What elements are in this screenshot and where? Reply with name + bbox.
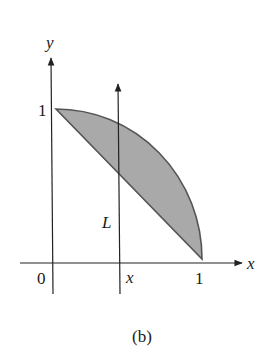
shaded-region — [56, 109, 202, 259]
line-L-label: L — [101, 213, 111, 232]
y-axis-label: y — [44, 33, 54, 52]
y-tick-label: 1 — [38, 101, 47, 120]
x-position-label: x — [125, 268, 134, 287]
y-axis — [51, 58, 53, 294]
origin-label: 0 — [37, 269, 46, 288]
figure-caption: (b) — [132, 327, 152, 346]
x-tick-label: 1 — [195, 269, 204, 288]
x-axis-label: x — [246, 254, 255, 273]
figure-canvas: y 1 x 0 x 1 L (b) — [0, 0, 276, 362]
